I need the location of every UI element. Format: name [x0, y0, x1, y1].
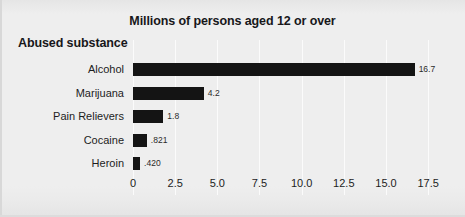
- chart-title: Millions of persons aged 12 or over: [0, 14, 465, 28]
- x-axis: 02.55.07.510.012.515.017.5: [133, 177, 445, 193]
- bar-row: Pain Relievers1.8: [133, 105, 445, 129]
- x-tick-label: 2.5: [168, 177, 183, 189]
- bar-row: Cocaine.821: [133, 129, 445, 153]
- bar-value-label: 16.7: [419, 63, 436, 76]
- bar-value-label: .821: [151, 134, 168, 147]
- category-label: Pain Relievers: [53, 110, 124, 123]
- category-label: Cocaine: [84, 134, 124, 147]
- x-tick-label: 12.5: [333, 177, 354, 189]
- figure-left-border: [0, 0, 2, 217]
- bar-value-label: .420: [144, 157, 161, 170]
- category-label: Alcohol: [88, 63, 124, 76]
- x-tick-label: 17.5: [417, 177, 438, 189]
- bar: [133, 87, 204, 100]
- bar: [133, 110, 163, 123]
- category-label: Marijuana: [76, 87, 124, 100]
- bar-row: Alcohol16.7: [133, 58, 445, 82]
- bar-row: Heroin.420: [133, 152, 445, 176]
- category-label: Heroin: [92, 157, 124, 170]
- bar: [133, 157, 140, 170]
- bar: [133, 134, 147, 147]
- x-tick-label: 0: [130, 177, 136, 189]
- x-tick-label: 10.0: [291, 177, 312, 189]
- x-tick-label: 5.0: [210, 177, 225, 189]
- bar-row: Marijuana4.2: [133, 82, 445, 106]
- bar-value-label: 1.8: [167, 110, 179, 123]
- bar-value-label: 4.2: [208, 87, 220, 100]
- chart-figure: Millions of persons aged 12 or over Abus…: [0, 0, 465, 217]
- x-tick-label: 7.5: [252, 177, 267, 189]
- plot-area: Alcohol16.7Marijuana4.2Pain Relievers1.8…: [133, 58, 445, 176]
- figure-bottom-border: [0, 215, 465, 217]
- y-axis-title: Abused substance: [18, 36, 128, 50]
- x-tick-label: 15.0: [375, 177, 396, 189]
- bar: [133, 63, 415, 76]
